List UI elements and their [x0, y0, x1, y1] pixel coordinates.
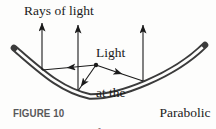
light-at-focus-line2: at the: [96, 86, 126, 99]
figure-caption: FIGURE 10: [13, 107, 64, 119]
light-at-focus-label: Light at the focus: [96, 19, 126, 129]
parabolic-mirror-label: Parabolic mirror: [153, 80, 216, 129]
parabolic-mirror-figure: Rays of light Light at the focus Parabol…: [0, 0, 216, 129]
focal-ray-middle-head: [81, 65, 96, 87]
light-at-focus-line3: focus: [96, 126, 126, 129]
focal-ray-middle-tail: [78, 87, 81, 91]
focal-ray-left-tail: [42, 68, 67, 70]
focal-ray-left-head: [67, 65, 96, 68]
rays-of-light-label: Rays of light: [24, 3, 94, 19]
light-at-focus-line1: Light: [96, 46, 126, 59]
parabolic-mirror-line1: Parabolic: [153, 106, 216, 119]
